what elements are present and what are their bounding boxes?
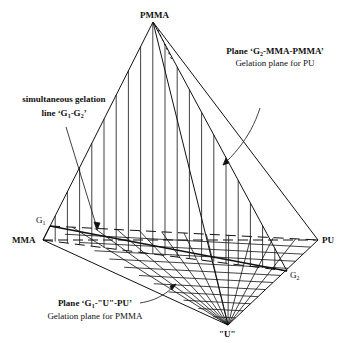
vertex-label-mma: MMA <box>12 236 36 245</box>
annotation-plane-g1-u-pu: Plane ‘G1-"U"-PU’ Gelation plane for PMM… <box>40 299 150 321</box>
vertex-label-pu: PU <box>322 236 334 245</box>
vertex-label-pmma: PMMA <box>140 11 169 20</box>
point-label-g2: G2 <box>290 271 300 281</box>
annotation-plane-g2-mma-pmma: Plane ‘G2-MMA-PMMA’ Gelation plane for P… <box>215 47 335 68</box>
annotation-simultaneous-gelation: simultaneous gelation line ‘G1-G2’ <box>14 95 114 119</box>
phase-diagram: PMMA MMA PU "U" G1 G2 Plane ‘G2-MMA-PMMA… <box>0 0 346 343</box>
edge-pmma-mma <box>43 22 153 240</box>
point-label-g1: G1 <box>36 216 46 226</box>
vertex-label-u: "U" <box>219 330 236 339</box>
line-g1-g2 <box>50 226 287 271</box>
